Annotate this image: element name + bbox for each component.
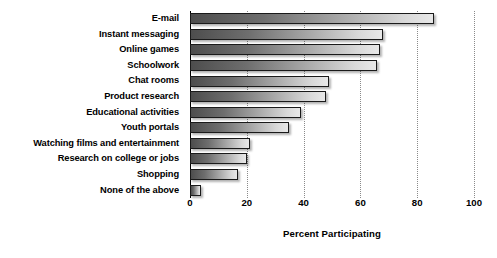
bar-row — [190, 182, 474, 198]
plot-area — [190, 11, 474, 198]
bar — [190, 60, 377, 71]
x-tick-label: 40 — [298, 198, 309, 208]
x-tick-label: 80 — [412, 198, 423, 208]
bar — [190, 29, 383, 40]
bar — [190, 153, 247, 164]
category-label: Online games — [0, 42, 184, 58]
category-label: Instant messaging — [0, 27, 184, 43]
bar — [190, 91, 326, 102]
bar — [190, 107, 301, 118]
bar-row — [190, 27, 474, 43]
bar — [190, 76, 329, 87]
bar-row — [190, 73, 474, 89]
bar-row — [190, 104, 474, 120]
bar-row — [190, 89, 474, 105]
bar — [190, 169, 238, 180]
x-axis-title: Percent Participating — [190, 228, 474, 239]
bar-row — [190, 151, 474, 167]
bar — [190, 122, 289, 133]
category-label: Product research — [0, 89, 184, 105]
x-tick-label: 20 — [241, 198, 252, 208]
category-label: Research on college or jobs — [0, 151, 184, 167]
bar — [190, 44, 380, 55]
bar-chart: E-mail Instant messaging Online games Sc… — [0, 0, 497, 258]
category-axis-labels: E-mail Instant messaging Online games Sc… — [0, 11, 184, 198]
category-label: Youth portals — [0, 120, 184, 136]
x-tick-label: 0 — [187, 198, 192, 208]
bar — [190, 138, 250, 149]
x-tick-label: 60 — [355, 198, 366, 208]
bar-row — [190, 136, 474, 152]
bar-row — [190, 58, 474, 74]
category-label: Shopping — [0, 167, 184, 183]
category-label: None of the above — [0, 182, 184, 198]
bar-row — [190, 42, 474, 58]
gridline-100 — [474, 11, 475, 198]
category-label: Educational activities — [0, 104, 184, 120]
category-label: Schoolwork — [0, 58, 184, 74]
bar-row — [190, 120, 474, 136]
bar — [190, 13, 434, 24]
bar-series — [190, 11, 474, 198]
category-label: Chat rooms — [0, 73, 184, 89]
category-label: E-mail — [0, 11, 184, 27]
bar-row — [190, 167, 474, 183]
x-tick-label: 100 — [466, 198, 482, 208]
x-axis-ticks: 020406080100 — [190, 198, 474, 214]
bar-row — [190, 11, 474, 27]
category-label: Watching films and entertainment — [0, 136, 184, 152]
bar — [190, 185, 201, 196]
